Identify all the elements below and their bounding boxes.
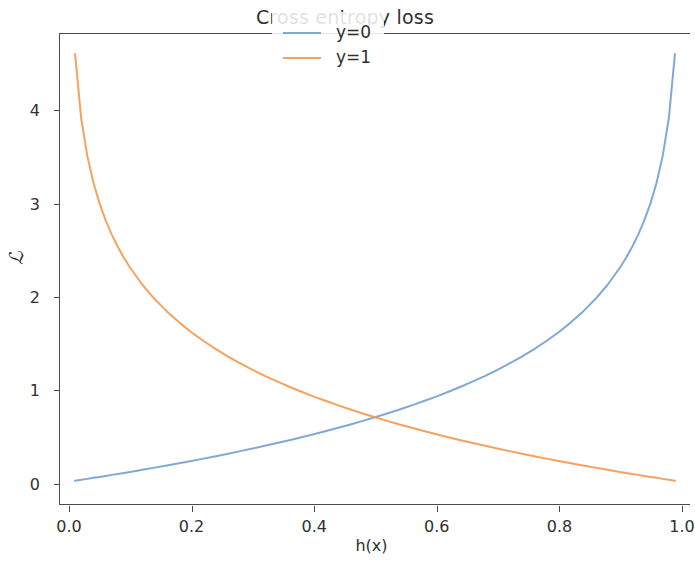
legend-swatch-y0 — [283, 32, 321, 34]
plot-area: 01234 0.00.20.40.60.81.0 — [59, 33, 690, 505]
x-tick-label: 0.2 — [179, 517, 204, 536]
legend-label-y1: y=1 — [336, 49, 371, 66]
legend-entry-0: y=0 — [283, 20, 371, 45]
x-tick-mark — [437, 506, 438, 512]
y-tick-label: 2 — [4, 288, 40, 307]
x-tick-mark — [559, 506, 560, 512]
x-tick-label: 0.6 — [424, 517, 449, 536]
legend-swatch-y1 — [283, 57, 321, 59]
y-tick-label: 1 — [4, 381, 40, 400]
x-tick-label: 0.0 — [56, 517, 81, 536]
x-tick-mark — [69, 506, 70, 512]
y-tick-label: 4 — [4, 101, 40, 120]
series-layer — [75, 54, 675, 481]
x-tick-mark — [192, 506, 193, 512]
curve-canvas — [60, 34, 690, 504]
x-tick-mark — [314, 506, 315, 512]
x-tick-label: 1.0 — [669, 517, 694, 536]
chart-legend: y=0 y=1 — [272, 12, 384, 78]
y-tick-label: 0 — [4, 474, 40, 493]
y-tick-label: 3 — [4, 194, 40, 213]
series-line-y=1 — [75, 54, 675, 481]
legend-label-y0: y=0 — [336, 24, 371, 41]
x-tick-mark — [682, 506, 683, 512]
x-tick-label: 0.4 — [301, 517, 326, 536]
y-axis-label: ℒ — [5, 238, 27, 278]
x-tick-label: 0.8 — [547, 517, 572, 536]
x-axis-label: h(x) — [59, 536, 684, 555]
legend-entry-1: y=1 — [283, 45, 371, 70]
